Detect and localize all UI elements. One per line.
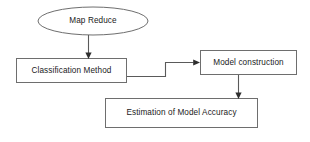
connector-classification-to-model-construction	[127, 59, 200, 76]
node-shape-map-reduce[interactable]	[38, 7, 148, 35]
node-shape-classification-method[interactable]	[17, 59, 127, 83]
arrow-head-icon	[193, 59, 200, 65]
flowchart-canvas: Map Reduce Classification Method Model c…	[0, 0, 310, 142]
node-shape-model-construction[interactable]	[201, 51, 297, 75]
connector-map-reduce-to-classification	[85, 35, 91, 59]
flowchart-vector-layer	[0, 0, 310, 142]
node-shape-estimation-of-model-accuracy[interactable]	[106, 99, 258, 128]
connector-model-construction-to-estimation	[235, 75, 241, 99]
